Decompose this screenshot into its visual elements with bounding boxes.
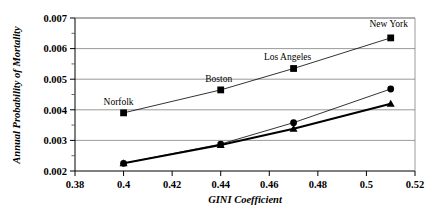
x-axis-ticks [75, 171, 415, 176]
mortality-vs-gini-chart: 0.0020.0030.0040.0050.0060.007 0.380.40.… [0, 0, 442, 213]
marker-circle [387, 86, 394, 93]
marker-square [217, 87, 224, 94]
y-axis-tick-labels: 0.0020.0030.0040.0050.0060.007 [43, 13, 67, 177]
annotation-label: Los Angeles [264, 52, 312, 62]
x-tick-label: 0.48 [309, 179, 327, 190]
y-tick-label: 0.004 [43, 105, 67, 116]
y-tick-label: 0.003 [43, 135, 67, 146]
x-tick-label: 0.42 [163, 179, 181, 190]
y-axis-title: Annual Probability of Mortality [11, 26, 22, 165]
x-axis-tick-labels: 0.380.40.420.440.460.480.50.52 [66, 179, 424, 190]
x-tick-label: 0.5 [360, 179, 373, 190]
y-axis-ticks [70, 18, 75, 171]
marker-square [120, 109, 127, 116]
x-tick-label: 0.4 [117, 179, 131, 190]
y-tick-label: 0.006 [43, 43, 67, 54]
x-tick-label: 0.46 [260, 179, 278, 190]
marker-square [387, 34, 394, 41]
annotation-label: Boston [205, 74, 232, 84]
x-tick-label: 0.52 [406, 179, 424, 190]
y-tick-label: 0.005 [43, 74, 67, 85]
plot-background [75, 18, 415, 171]
x-tick-label: 0.44 [212, 179, 231, 190]
y-tick-label: 0.007 [43, 13, 67, 24]
x-axis-title: GINI Coefficient [208, 194, 283, 205]
annotation-label: New York [369, 19, 408, 29]
y-tick-label: 0.002 [43, 166, 67, 177]
x-tick-label: 0.38 [66, 179, 84, 190]
annotation-label: Norfolk [104, 97, 134, 107]
marker-square [290, 65, 297, 72]
chart-container: 0.0020.0030.0040.0050.0060.007 0.380.40.… [0, 0, 442, 213]
